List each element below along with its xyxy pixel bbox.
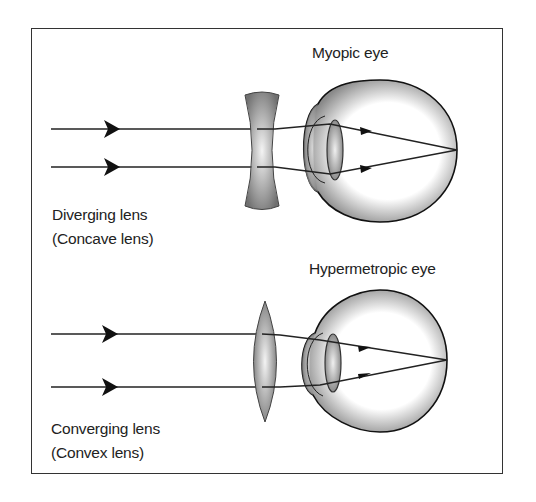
myopic-eye-title: Myopic eye — [312, 40, 388, 65]
diverging-lens-label: Diverging lens — [52, 202, 147, 227]
hypermetropic-eye-title: Hypermetropic eye — [309, 256, 436, 281]
hypermetropic-panel — [51, 290, 447, 432]
concave-lens-icon — [245, 92, 279, 210]
myopic-panel — [51, 80, 457, 222]
eyeball-icon — [302, 290, 447, 432]
eye-lens-icon — [327, 120, 343, 180]
concave-lens-label: (Concave lens) — [52, 226, 153, 251]
convex-lens-label: (Convex lens) — [51, 440, 144, 465]
convex-lens-icon — [254, 301, 277, 422]
converging-lens-label: Converging lens — [51, 416, 160, 441]
